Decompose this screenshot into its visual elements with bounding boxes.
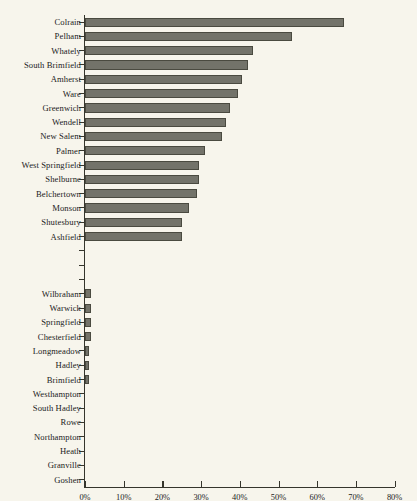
bar [85, 132, 222, 141]
x-axis-tick [317, 481, 318, 487]
chart-row: Amherst [0, 72, 417, 86]
category-label: Rowe [0, 415, 85, 429]
chart-row: West Springfield [0, 158, 417, 172]
bar [85, 361, 89, 370]
y-axis-tick [79, 422, 85, 423]
chart-row: Brimfield [0, 373, 417, 387]
category-label: Hadley [0, 358, 85, 372]
category-label: Westhampton [0, 387, 85, 401]
x-axis-tick-label: 30% [181, 493, 221, 501]
chart-row: Springfield [0, 315, 417, 329]
category-label: Springfield [0, 315, 85, 329]
x-axis-tick [85, 481, 86, 487]
chart-row: Colrain [0, 15, 417, 29]
y-axis-tick [79, 265, 85, 266]
chart-row: Granville [0, 458, 417, 472]
y-axis-tick [79, 436, 85, 437]
x-axis-tick-label: 10% [104, 493, 144, 501]
category-label: Wendell [0, 115, 85, 129]
bar [85, 161, 199, 170]
chart-row: New Salem [0, 129, 417, 143]
category-label: Longmeadow [0, 344, 85, 358]
category-label: Goshen [0, 473, 85, 487]
chart-row: South Hadley [0, 401, 417, 415]
category-label: Brimfield [0, 373, 85, 387]
chart-row: Chesterfield [0, 330, 417, 344]
bar [85, 89, 238, 98]
chart-row: Pelham [0, 29, 417, 43]
x-axis-tick-label: 20% [142, 493, 182, 501]
chart-row: Wendell [0, 115, 417, 129]
bar [85, 346, 89, 355]
chart-row: Ashfield [0, 230, 417, 244]
chart-row: Shelburne [0, 172, 417, 186]
category-label: Shutesbury [0, 215, 85, 229]
bar [85, 118, 226, 127]
bar [85, 103, 230, 112]
bar [85, 46, 253, 55]
category-label: Northampton [0, 430, 85, 444]
category-label: Colrain [0, 15, 85, 29]
bar [85, 232, 182, 241]
chart-row: South Brimfield [0, 58, 417, 72]
bar [85, 332, 91, 341]
x-axis-tick [395, 481, 396, 487]
chart-row: Ware [0, 87, 417, 101]
x-axis-tick-label: 50% [259, 493, 299, 501]
category-label: West Springfield [0, 158, 85, 172]
bar [85, 60, 248, 69]
chart-row [0, 272, 417, 286]
category-label: Belchertown [0, 187, 85, 201]
x-axis-tick-label: 40% [220, 493, 260, 501]
chart-row [0, 258, 417, 272]
y-axis-tick [79, 279, 85, 280]
x-axis-tick-label: 0% [65, 493, 105, 501]
x-axis-tick [124, 481, 125, 487]
category-label: Chesterfield [0, 330, 85, 344]
plot-area: ColrainPelhamWhatelySouth BrimfieldAmher… [0, 0, 417, 470]
category-label: Warwick [0, 301, 85, 315]
y-axis-tick [79, 250, 85, 251]
chart-row: Longmeadow [0, 344, 417, 358]
category-label: Ware [0, 87, 85, 101]
bar [85, 146, 205, 155]
chart-row: Whately [0, 44, 417, 58]
bar [85, 18, 344, 27]
chart-row: Greenwich [0, 101, 417, 115]
category-label: Shelburne [0, 172, 85, 186]
bar [85, 203, 189, 212]
category-label: Pelham [0, 29, 85, 43]
bar [85, 289, 91, 298]
bar [85, 304, 91, 313]
bar [85, 218, 182, 227]
y-axis-tick [79, 465, 85, 466]
bar [85, 189, 197, 198]
bar [85, 32, 292, 41]
category-label: South Hadley [0, 401, 85, 415]
chart-row: Palmer [0, 144, 417, 158]
category-label: Heath [0, 444, 85, 458]
category-label: Wilbraham [0, 287, 85, 301]
chart-row: Rowe [0, 415, 417, 429]
category-label: Granville [0, 458, 85, 472]
x-axis-tick [356, 481, 357, 487]
category-label: Amherst [0, 72, 85, 86]
x-axis-tick [201, 481, 202, 487]
category-label: South Brimfield [0, 58, 85, 72]
y-axis-tick [79, 451, 85, 452]
x-axis-tick [240, 481, 241, 487]
y-axis-tick [79, 408, 85, 409]
bar-chart: ColrainPelhamWhatelySouth BrimfieldAmher… [0, 0, 417, 501]
chart-row [0, 244, 417, 258]
bar [85, 75, 242, 84]
category-label: Palmer [0, 144, 85, 158]
x-axis-tick-label: 60% [297, 493, 337, 501]
bar [85, 175, 199, 184]
chart-row: Hadley [0, 358, 417, 372]
bar [85, 318, 91, 327]
chart-row: Shutesbury [0, 215, 417, 229]
chart-row: Heath [0, 444, 417, 458]
x-axis-tick-label: 70% [336, 493, 376, 501]
chart-row: Warwick [0, 301, 417, 315]
x-axis-tick [279, 481, 280, 487]
